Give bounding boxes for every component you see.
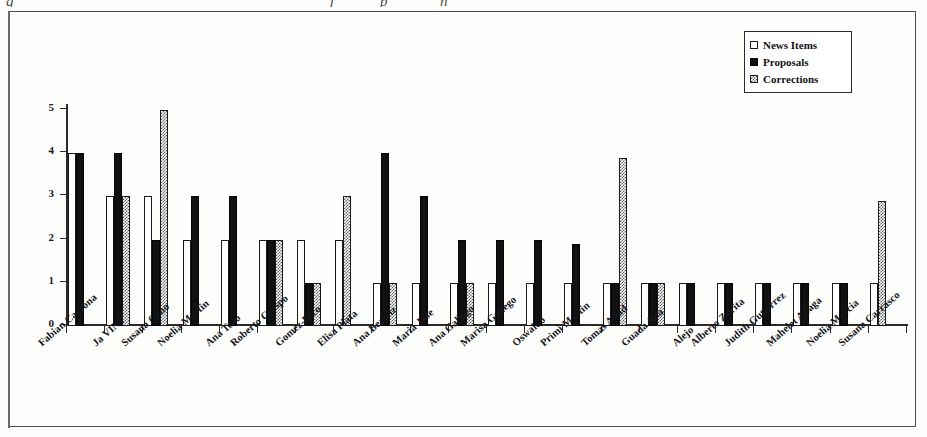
bar-group — [679, 102, 695, 326]
bar-group — [412, 102, 428, 326]
y-tick-label-5: 5 — [34, 101, 54, 113]
bar-news — [68, 153, 76, 326]
legend-item-news-items: News Items — [750, 36, 846, 53]
caption-fragment-3: p — [380, 0, 388, 7]
bar-group — [488, 102, 504, 326]
bar-news — [144, 196, 152, 326]
legend-label-proposals: Proposals — [763, 56, 809, 68]
bar-group — [717, 102, 733, 326]
bar-corr — [160, 110, 168, 326]
bar-group — [183, 102, 199, 326]
bar-corr — [122, 196, 130, 326]
bar-group — [259, 102, 283, 326]
bar-group — [870, 102, 886, 326]
bar-corr — [343, 196, 351, 326]
y-tick-label-4: 4 — [34, 144, 54, 156]
bar-prop — [114, 153, 122, 326]
bar-news — [335, 240, 343, 326]
bar-group — [603, 102, 627, 326]
caption-fragment-1: g — [6, 0, 14, 7]
bar-group — [641, 102, 665, 326]
y-tick-label-2: 2 — [34, 231, 54, 243]
bar-prop — [687, 283, 695, 326]
bar-group — [450, 102, 474, 326]
legend-item-corrections: Corrections — [750, 70, 846, 87]
bar-group — [335, 102, 351, 326]
bar-group — [526, 102, 542, 326]
legend-swatch-news-items-icon — [750, 41, 758, 49]
caption-fragment-2: f — [330, 0, 334, 7]
bar-news — [106, 196, 114, 326]
bar-corr — [275, 240, 283, 326]
legend-swatch-corrections-icon — [750, 75, 758, 83]
bar-group — [68, 102, 84, 326]
bar-group — [793, 102, 809, 326]
bar-prop — [534, 240, 542, 326]
bar-group — [221, 102, 237, 326]
bar-group — [564, 102, 580, 326]
legend-label-corrections: Corrections — [763, 73, 818, 85]
y-tick-label-1: 1 — [34, 274, 54, 286]
y-tick-label-3: 3 — [34, 187, 54, 199]
caption-fragment-4: n — [440, 0, 448, 7]
bar-news — [679, 283, 687, 326]
bar-group — [373, 102, 397, 326]
chart-legend: News Items Proposals Corrections — [744, 31, 852, 93]
bar-prop — [381, 153, 389, 326]
bar-prop — [229, 196, 237, 326]
legend-item-proposals: Proposals — [750, 53, 846, 70]
legend-swatch-proposals-icon — [750, 58, 758, 66]
bar-group — [832, 102, 848, 326]
bar-corr — [619, 158, 627, 326]
top-caption-fragment: g f p n — [0, 0, 927, 7]
bar-group — [144, 102, 168, 326]
bar-group — [106, 102, 130, 326]
legend-label-news-items: News Items — [763, 39, 817, 51]
bar-group — [297, 102, 321, 326]
figure-container: g f p n 012345 Fabian CarronaJa VINTSusa… — [0, 0, 927, 437]
x-axis-labels: Fabian CarronaJa VINTSusana CanoNoelia M… — [0, 332, 927, 437]
bar-news — [221, 240, 229, 326]
bar-group — [755, 102, 771, 326]
